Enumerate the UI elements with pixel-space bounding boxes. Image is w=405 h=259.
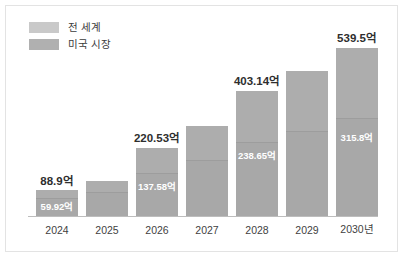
bar-stack-2026[interactable]: 137.58억 — [136, 148, 178, 216]
bar-segment-world-2025[interactable] — [86, 181, 128, 192]
bar-segment-us-2024[interactable]: 59.92억 — [36, 198, 78, 216]
bar-group-2026: 220.53억 137.58억 2026 — [136, 38, 178, 216]
bar-group-2024: 88.9억 59.92억 2024 — [36, 38, 78, 216]
bar-stack-2025[interactable] — [86, 181, 128, 216]
bar-group-2025: 2025 — [86, 38, 128, 216]
bar-segment-us-2028[interactable]: 238.65억 — [236, 142, 278, 216]
bar-stack-2024[interactable]: 59.92억 — [36, 190, 78, 216]
bar-us-label-2028: 238.65억 — [238, 148, 276, 162]
bar-segment-world-2029[interactable] — [286, 71, 328, 131]
x-tick-2024: 2024 — [45, 224, 68, 236]
x-axis-line — [28, 216, 378, 217]
bar-stack-2028[interactable]: 238.65억 — [236, 91, 278, 216]
bar-segment-world-2027[interactable] — [186, 126, 228, 160]
bar-group-2027: 2027 — [186, 38, 228, 216]
bar-stack-2027[interactable] — [186, 126, 228, 216]
bar-group-2030: 539.5억 315.8억 2030년 — [336, 38, 378, 216]
bar-segment-us-2029[interactable] — [286, 131, 328, 216]
bar-segment-world-2024[interactable] — [36, 190, 78, 198]
chart-card: 전 세계 미국 시장 88.9억 59.92억 2024 — [5, 5, 398, 252]
bar-stack-2030[interactable]: 315.8억 — [336, 48, 378, 216]
bar-total-label-2030: 539.5억 — [337, 29, 377, 45]
plot-area: 88.9억 59.92억 2024 2025 220.53억 — [6, 6, 399, 253]
bar-group-2029: 2029 — [286, 38, 328, 216]
x-tick-2029: 2029 — [295, 224, 318, 236]
bar-total-label-2024: 88.9억 — [40, 172, 73, 188]
x-tick-2026: 2026 — [145, 224, 168, 236]
bar-segment-us-2026[interactable]: 137.58억 — [136, 173, 178, 216]
bar-segment-us-2025[interactable] — [86, 192, 128, 216]
x-tick-2030: 2030년 — [340, 221, 373, 236]
bar-group-2028: 403.14억 238.65억 2028 — [236, 38, 278, 216]
bar-total-label-2028: 403.14억 — [234, 72, 280, 88]
bar-segment-world-2026[interactable] — [136, 148, 178, 173]
bar-segment-world-2030[interactable] — [336, 48, 378, 118]
bar-segment-world-2028[interactable] — [236, 91, 278, 142]
bar-segment-us-2030[interactable]: 315.8억 — [336, 118, 378, 216]
x-tick-2027: 2027 — [195, 224, 218, 236]
bar-us-label-2026: 137.58억 — [138, 179, 176, 193]
bar-stack-2029[interactable] — [286, 71, 328, 216]
bar-total-label-2026: 220.53억 — [134, 129, 180, 145]
bar-segment-us-2027[interactable] — [186, 160, 228, 216]
bar-us-label-2024: 59.92억 — [41, 199, 74, 213]
bar-us-label-2030: 315.8억 — [341, 130, 374, 144]
x-tick-2028: 2028 — [245, 224, 268, 236]
x-tick-2025: 2025 — [95, 224, 118, 236]
